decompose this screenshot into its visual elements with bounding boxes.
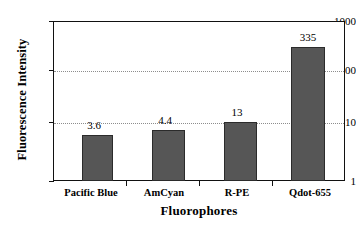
x-category-label-qdot-655: Qdot-655 [274,187,346,198]
x-tick-mark-1 [126,181,127,186]
x-tick-mark-2 [199,181,200,186]
bar-chart: Fluorescence Intensity 1000 100 10 1 3.6… [0,0,356,232]
bar-r-pe [224,122,257,181]
x-axis-title: Fluorophores [53,203,345,219]
y-axis-title: Fluorescence Intensity [15,15,30,185]
bar-value-r-pe: 13 [209,107,265,118]
bar-value-amcyan: 4.4 [137,115,193,126]
plot-area [53,21,345,181]
bar-value-qdot-655: 335 [280,32,336,43]
bar-value-pacific-blue: 3.6 [66,120,122,131]
x-category-label-amcyan: AmCyan [128,187,200,198]
y-tick-mark-1 [49,181,54,182]
x-tick-mark-3 [272,181,273,186]
bar-qdot-655 [291,47,325,181]
bar-pacific-blue [82,135,113,181]
x-category-label-pacific-blue: Pacific Blue [55,187,127,198]
bar-amcyan [152,130,185,181]
x-category-label-r-pe: R-PE [201,187,273,198]
